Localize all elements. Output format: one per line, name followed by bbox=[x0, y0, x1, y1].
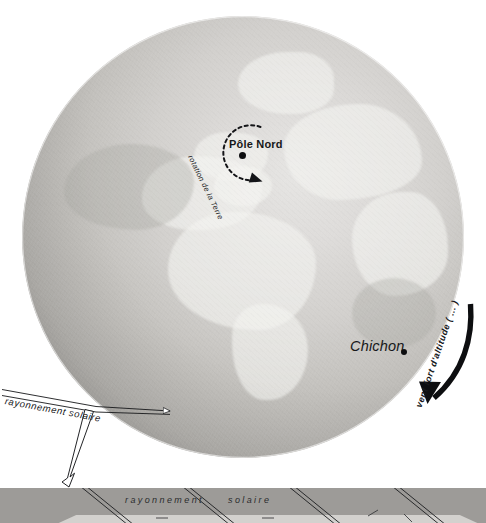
bottom-panel: rayonnement solaire bbox=[0, 488, 486, 523]
globe bbox=[14, 8, 472, 466]
panel-floor-surface bbox=[50, 515, 486, 523]
globe-sphere bbox=[22, 16, 464, 458]
north-pole-marker bbox=[239, 152, 246, 159]
globe-limb-highlight bbox=[22, 16, 464, 458]
figure-root: Pôle Nord rotation de la Terre Chichon r… bbox=[0, 0, 486, 523]
panel-label-solaire: solaire bbox=[228, 496, 271, 505]
chichon-volcano-marker bbox=[401, 349, 407, 355]
north-pole-label: Pôle Nord bbox=[229, 139, 283, 150]
chichon-volcano-label: Chichon bbox=[350, 339, 405, 354]
panel-label-rayonnement: rayonnement bbox=[125, 496, 204, 505]
